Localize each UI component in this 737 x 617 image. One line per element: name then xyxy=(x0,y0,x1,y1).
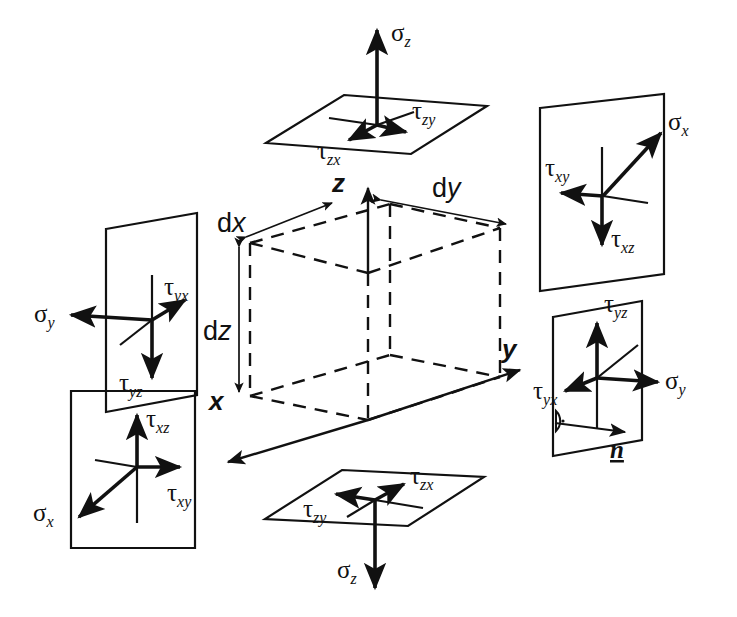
vector-tau-yx xyxy=(565,378,597,391)
vector-tau-zx xyxy=(349,125,377,140)
label-tau-zy: τzy xyxy=(303,495,327,527)
diagram-canvas: z y x dx dy dz xyxy=(0,0,737,617)
vector-sigma-x xyxy=(603,133,661,196)
vector-tau-zx-tail xyxy=(347,500,375,517)
perpendicular-marker-icon xyxy=(556,411,560,431)
vector-tau-zx xyxy=(375,484,404,500)
label-tau-zx: τzx xyxy=(410,462,433,493)
panel-negative-x-face[interactable]: σx τxz τxy xyxy=(33,391,195,548)
cube-edge-bottom-left xyxy=(250,396,368,420)
label-tau-yz: τyz xyxy=(604,290,628,322)
panel-negative-y-face[interactable]: σy τyx τyz xyxy=(34,213,197,412)
label-tau-yx: τyx xyxy=(164,273,188,305)
vector-tau-zy-tail xyxy=(375,500,423,508)
vector-sigma-y xyxy=(597,378,658,382)
label-sigma-y: σy xyxy=(34,300,55,332)
label-sigma-z: σz xyxy=(337,556,357,587)
normal-vector-group: n xyxy=(555,411,625,463)
dz-label: dz xyxy=(203,316,232,346)
dx-label: dx xyxy=(217,208,247,238)
vector-tau-zy xyxy=(377,125,406,132)
cube-group xyxy=(250,204,500,420)
x-axis-label: x xyxy=(207,386,225,416)
label-sigma-x: σx xyxy=(33,499,54,530)
label-tau-zx: τzx xyxy=(317,137,340,168)
dimensions-group: dx dy dz xyxy=(203,173,506,392)
label-sigma-z: σz xyxy=(391,19,411,50)
vector-tau-zy-tail xyxy=(377,112,414,125)
label-tau-yz: τyz xyxy=(119,369,143,401)
panel-positive-x-face[interactable]: σx τxy τxz xyxy=(540,94,689,291)
label-sigma-y: σy xyxy=(665,367,686,399)
cube-edge-top-front-right xyxy=(368,228,500,273)
vector-tau-xy xyxy=(561,193,603,196)
vector-sigma-y xyxy=(71,315,152,320)
label-tau-xz: τxz xyxy=(611,225,635,256)
y-axis-line xyxy=(368,370,520,420)
vector-sigma-x xyxy=(79,467,137,517)
label-normal-vector-n: n xyxy=(610,436,624,463)
y-axis-label: y xyxy=(500,334,518,364)
vector-tau-zy xyxy=(336,494,375,500)
vector-tau-xy-tail xyxy=(603,196,648,203)
label-sigma-x: σx xyxy=(668,108,689,139)
cube-edge-bottom-back-right xyxy=(390,355,500,377)
label-tau-xy: τxy xyxy=(167,479,192,511)
perpendicular-marker-dot xyxy=(561,419,564,422)
panel-negative-z-face[interactable]: σz τzy τzx xyxy=(265,462,484,588)
dy-label: dy xyxy=(432,173,462,203)
panel-positive-z-face[interactable]: σz τzy τzx xyxy=(266,19,487,168)
vector-tau-yx-tail xyxy=(597,345,638,378)
normal-vector-n-line xyxy=(555,423,625,432)
cube-edge-top-front-left xyxy=(250,243,368,273)
label-tau-xy: τxy xyxy=(545,154,570,186)
panel-positive-y-face[interactable]: σy τyz τyx n xyxy=(533,290,686,463)
vector-tau-zx-tail xyxy=(329,118,377,125)
dx-dimension-line xyxy=(246,203,332,237)
x-axis-line xyxy=(228,420,368,462)
label-tau-xz: τxz xyxy=(146,405,170,436)
dy-dimension-line xyxy=(381,200,506,224)
vector-tau-xy-tail xyxy=(95,460,137,467)
stress-element-diagram: z y x dx dy dz xyxy=(0,0,737,617)
vector-tau-yx-tail xyxy=(120,320,152,345)
z-axis-label: z xyxy=(331,168,345,198)
cube-edge-top-back-right xyxy=(390,204,500,228)
